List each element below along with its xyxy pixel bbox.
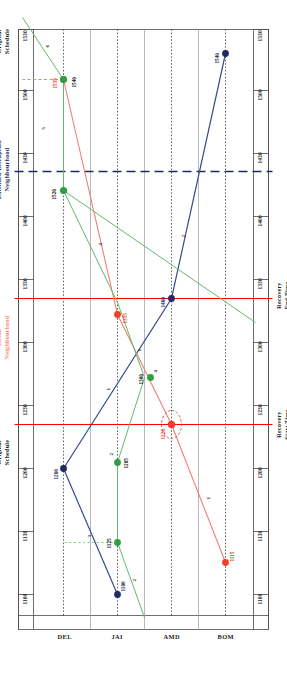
point-label-1540-del: 1540 (70, 77, 76, 87)
point-label-1300: 1300 (137, 374, 143, 384)
plot-svg (0, 0, 287, 677)
point-1540-del (60, 76, 67, 83)
tick-label-bottom-1330: 1330 (256, 278, 262, 289)
point-label-1535: 1535 (51, 78, 57, 88)
tick-label-top-1500: 1500 (21, 89, 27, 100)
annotation-original-schedule-right: Original Schedule (0, 5, 11, 77)
tick-label-bottom-1400: 1400 (256, 215, 262, 226)
tick-label-bottom-1200: 1200 (256, 467, 262, 478)
point-label-1205: 1205 (122, 458, 128, 468)
point-1220-amd (167, 420, 174, 427)
point-label-1400: 1400 (159, 297, 165, 307)
point-label-1200: 1200 (52, 469, 58, 479)
edge-label-en-6: 6 (44, 45, 49, 48)
edge-label-en-1: 1 (136, 349, 141, 352)
point-label-1355: 1355 (121, 313, 127, 323)
tick-label-bottom-1500: 1500 (256, 89, 262, 100)
series-original-schedule-points (60, 50, 229, 598)
series-original-schedule (63, 53, 225, 594)
point-label-1115: 1115 (228, 551, 234, 561)
point-1115-bom (222, 559, 229, 566)
tick-label-top-1100: 1100 (21, 593, 27, 604)
tick-label-bottom-1230: 1230 (256, 404, 262, 415)
edge-label-in-4a: 4 (152, 370, 157, 373)
rotated-figure: 1100 1130 1200 1230 1300 1330 1400 1430 … (0, 0, 287, 677)
tick-label-top-1400: 1400 (21, 215, 27, 226)
series-extended-neighbourhood (22, 17, 255, 617)
point-label-1540-bom: 1540 (213, 53, 219, 63)
series-extended-neighbourhood-points (59, 76, 153, 546)
station-label-amd: AMD (163, 632, 179, 639)
point-label-1100: 1100 (119, 581, 125, 591)
tick-label-top-1530: 1530 (21, 30, 27, 41)
chart-canvas: 1100 1130 1200 1230 1300 1330 1400 1430 … (0, 0, 287, 677)
annotation-extended-disruption: Extended Disruption Neighbourhood (0, 123, 11, 215)
tick-label-top-1130: 1130 (21, 530, 27, 541)
point-1540-bom (222, 50, 229, 57)
edge-label-os-3: 3 (86, 535, 91, 538)
edge-label-os-1: 1 (105, 388, 110, 391)
edge-label-in-1: 1 (205, 497, 210, 500)
point-label-1520: 1520 (50, 189, 56, 199)
station-label-jai: JAI (111, 632, 123, 639)
tick-label-bottom-1130: 1130 (256, 530, 262, 541)
time-axis-ticks (18, 29, 268, 594)
point-1520-del (59, 186, 66, 193)
tick-label-top-1300: 1300 (21, 341, 27, 352)
tick-label-top-1330: 1330 (21, 278, 27, 289)
tick-label-bottom-1300: 1300 (256, 341, 262, 352)
axis-frame (18, 29, 268, 629)
station-guides (63, 29, 225, 615)
annotation-initial-neighbourhood: Initial Neighbourhood (0, 297, 11, 377)
edge-label-os-2: 2 (180, 235, 185, 238)
edge-label-in-4b: 4 (97, 243, 102, 246)
tick-label-top-1430: 1430 (21, 152, 27, 163)
annotation-recovery-start-time: Recovery Start Time (274, 387, 287, 461)
tick-label-bottom-1100: 1100 (256, 593, 262, 604)
point-1125-jai (114, 539, 121, 546)
edge-label-en-2b: 2 (108, 453, 113, 456)
edge-label-en-2a: 2 (131, 579, 136, 582)
point-1400-amd (168, 295, 175, 302)
recovery-bound-lines (14, 298, 272, 424)
point-1355-jai (114, 311, 121, 318)
point-1100-jai (114, 591, 121, 598)
tick-label-bottom-1530: 1530 (256, 30, 262, 41)
point-label-1125: 1125 (105, 538, 111, 548)
tick-label-top-1200: 1200 (21, 467, 27, 478)
station-label-del: DEL (57, 632, 71, 639)
tick-label-top-1230: 1230 (21, 404, 27, 415)
series-initial-neighbourhood-points (60, 76, 229, 566)
station-label-bom: BOM (217, 632, 233, 639)
point-label-1220: 1220 (159, 429, 165, 439)
tick-label-bottom-1430: 1430 (256, 152, 262, 163)
edge-label-en-5: 5 (40, 127, 45, 130)
point-1205-jai (114, 459, 121, 466)
annotation-original-schedule-left: Original Schedule (0, 412, 11, 492)
annotation-recovery-end-time: Recovery End Time (274, 258, 287, 332)
